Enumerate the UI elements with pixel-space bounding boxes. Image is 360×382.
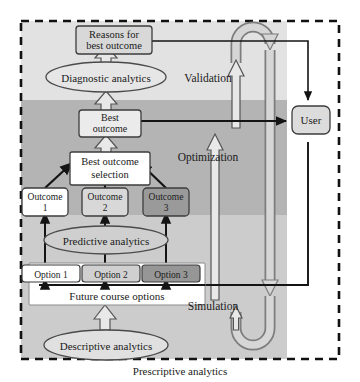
reasons-line-1: Reasons for xyxy=(89,29,139,40)
option-1-label: Option 1 xyxy=(34,270,68,280)
diagnostic-analytics-label: Diagnostic analytics xyxy=(61,72,151,84)
prescriptive-analytics-figure: right and down to User --> right to User… xyxy=(0,0,360,382)
figure-caption: Prescriptive analytics xyxy=(133,365,227,377)
best-outcome-line-1: Best xyxy=(101,112,119,123)
outcome-3-box[interactable]: Outcome 3 xyxy=(143,188,189,216)
outcome-1-line-2: 1 xyxy=(43,203,48,213)
outcome-1-line-1: Outcome xyxy=(28,192,63,202)
option-1-box[interactable]: Option 1 xyxy=(22,265,80,282)
outcome-2-line-2: 2 xyxy=(103,203,108,213)
user-box[interactable]: User xyxy=(292,106,330,134)
simulation-label: Simulation xyxy=(188,300,239,312)
validation-label: Validation xyxy=(184,72,232,84)
option-3-label: Option 3 xyxy=(154,270,188,280)
outcome-2-line-1: Outcome xyxy=(88,192,123,202)
option-2-box[interactable]: Option 2 xyxy=(82,265,140,282)
best-outcome-box[interactable]: Best outcome xyxy=(79,110,141,137)
option-3-box[interactable]: Option 3 xyxy=(142,265,200,282)
user-label: User xyxy=(301,114,322,126)
predictive-analytics-label: Predictive analytics xyxy=(63,235,149,247)
reasons-line-2: best outcome xyxy=(86,40,142,51)
option-2-label: Option 2 xyxy=(94,270,128,280)
selection-line-1: Best outcome xyxy=(81,156,139,167)
outcome-3-line-2: 3 xyxy=(164,203,169,213)
diagram-canvas: right and down to User --> right to User… xyxy=(0,0,360,382)
outcome-1-box[interactable]: Outcome 1 xyxy=(22,188,68,216)
best-outcome-line-2: outcome xyxy=(93,123,128,134)
descriptive-analytics-label: Descriptive analytics xyxy=(60,340,153,352)
selection-line-2: selection xyxy=(91,169,129,180)
reasons-for-best-outcome-box[interactable]: Reasons for best outcome xyxy=(76,26,152,54)
optimization-label: Optimization xyxy=(178,151,239,164)
future-course-options-label: Future course options xyxy=(69,290,164,302)
outcome-3-line-1: Outcome xyxy=(149,192,184,202)
best-outcome-selection-box[interactable]: Best outcome selection xyxy=(70,152,150,185)
outcome-2-box[interactable]: Outcome 2 xyxy=(82,188,128,216)
